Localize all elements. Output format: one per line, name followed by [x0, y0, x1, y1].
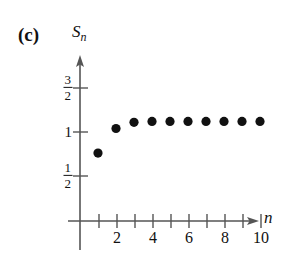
data-point — [201, 117, 210, 126]
data-point — [111, 124, 120, 133]
x-axis — [68, 217, 259, 225]
data-point — [147, 117, 156, 126]
data-point-series — [93, 117, 264, 158]
data-point — [93, 149, 102, 158]
data-point — [129, 118, 138, 127]
data-point — [255, 117, 264, 126]
data-point — [183, 117, 192, 126]
figure-panel: (c) Sn n 3 2 1 1 2 2 4 6 8 10 — [0, 0, 290, 272]
data-point — [219, 117, 228, 126]
data-point — [237, 117, 246, 126]
plot-area — [0, 0, 290, 272]
data-point — [165, 117, 174, 126]
